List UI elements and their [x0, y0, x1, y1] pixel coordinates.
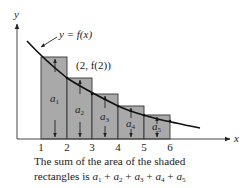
caption-line-2: rectangles is a1 + a2 + a3 + a4 + a5 — [34, 169, 244, 188]
tick-label: 1 — [38, 141, 44, 153]
tick-label: 2 — [64, 141, 70, 153]
y-axis-label: y — [13, 8, 19, 20]
point-label: (2, f(2)) — [76, 59, 111, 72]
figure-caption: The sum of the area of the shaded rectan… — [34, 154, 244, 188]
tick-label: 4 — [115, 141, 121, 153]
x-axis-label: x — [233, 132, 239, 144]
x-tick-labels: 1 2 3 4 5 6 — [38, 141, 173, 153]
tick-label: 6 — [167, 141, 173, 153]
curve-label: y = f(x) — [58, 28, 92, 41]
tick-label: 5 — [141, 141, 147, 153]
tick-label: 3 — [89, 141, 95, 153]
curve-label-arrow — [41, 37, 57, 47]
caption-line-1: The sum of the area of the shaded — [34, 154, 244, 169]
